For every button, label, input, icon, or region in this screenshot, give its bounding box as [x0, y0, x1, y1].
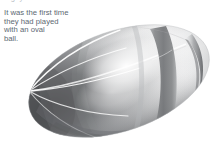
paragraph-line: ball. — [4, 35, 90, 44]
body-paragraph: It was the first time they had played wi… — [4, 9, 90, 43]
page-canvas: rugby ball and a round ball. It was the … — [0, 0, 216, 148]
